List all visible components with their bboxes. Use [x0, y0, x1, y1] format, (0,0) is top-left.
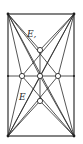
corner-bottom-right — [73, 135, 76, 138]
node-center — [37, 73, 42, 78]
corner-top-right — [73, 13, 76, 16]
label-upper-e: E, — [26, 29, 37, 39]
edge-point-right — [73, 75, 75, 77]
edge-point-left — [7, 75, 9, 77]
node-top — [37, 47, 42, 52]
node-left — [19, 73, 24, 78]
corner-top-left — [7, 13, 10, 16]
geometric-diagram: E, E — [0, 0, 83, 144]
corner-bottom-left — [7, 135, 10, 138]
fan-bottom-left — [8, 76, 58, 136]
label-lower-e: E — [18, 92, 26, 102]
node-bottom — [37, 98, 42, 103]
fan-bottom-right — [22, 76, 74, 136]
node-right — [55, 73, 60, 78]
